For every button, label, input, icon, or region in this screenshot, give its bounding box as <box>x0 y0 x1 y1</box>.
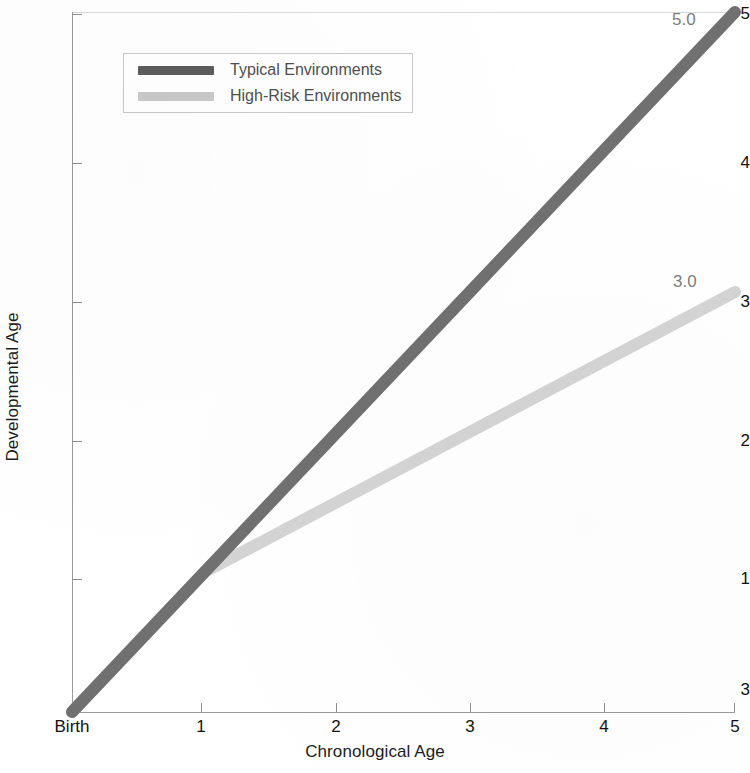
y-axis-title: Developmental Age <box>0 0 26 773</box>
y-tick-mark-1 <box>72 579 82 580</box>
y-axis-line <box>72 12 73 712</box>
plot-area <box>72 12 735 712</box>
x-tick-label-5: 5 <box>730 717 739 737</box>
x-tick-label-2: 2 <box>331 717 340 737</box>
x-axis-title: Chronological Age <box>0 742 750 762</box>
x-tick-mark-5 <box>734 703 735 712</box>
chart-figure: Developmental Age 5 4 3 2 1 3 Birth 1 2 … <box>0 0 750 773</box>
y-tick-mark-2 <box>72 441 82 442</box>
y-tick-mark-3 <box>72 302 82 303</box>
x-axis-title-text: Chronological Age <box>305 742 445 761</box>
y-axis-title-text: Developmental Age <box>3 312 23 461</box>
x-tick-label-3: 3 <box>465 717 474 737</box>
legend-label-high-risk: High-Risk Environments <box>230 87 402 105</box>
x-tick-mark-3 <box>470 703 471 712</box>
x-tick-mark-1 <box>201 703 202 712</box>
legend-swatch-typical-icon <box>138 66 214 75</box>
value-label-high-risk: 3.0 <box>673 272 697 292</box>
x-tick-label-4: 4 <box>599 717 608 737</box>
x-axis-line <box>72 712 735 713</box>
x-tick-label-1: 1 <box>196 717 205 737</box>
legend: Typical Environments High-Risk Environme… <box>123 53 413 113</box>
x-tick-mark-2 <box>336 703 337 712</box>
legend-entry-typical: Typical Environments <box>138 57 382 83</box>
legend-label-typical: Typical Environments <box>230 61 382 79</box>
legend-swatch-high-risk-icon <box>138 92 214 101</box>
y-tick-mark-4 <box>72 163 82 164</box>
x-tick-label-birth: Birth <box>55 717 90 737</box>
legend-entry-high-risk: High-Risk Environments <box>138 83 402 109</box>
value-label-typical: 5.0 <box>672 10 696 30</box>
x-tick-mark-4 <box>604 703 605 712</box>
plot-top-border <box>72 12 735 13</box>
y-tick-mark-5 <box>72 14 82 15</box>
